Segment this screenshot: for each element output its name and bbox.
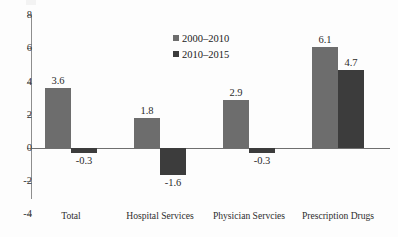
legend-label: 2000–2010 [182,33,229,44]
bar-value-label: 3.6 [38,75,78,86]
bar-value-label: 2.9 [216,87,256,98]
bar [338,70,364,148]
chart-legend: 2000–2010 2010–2015 [173,31,229,63]
bar-value-label: -0.3 [64,155,104,166]
legend-swatch-icon [173,35,179,41]
bar-chart: 86420-2-4 3.6-0.31.8-1.62.9-0.36.14.7 To… [0,0,398,237]
x-axis-category-label: Prescription Drugs [278,210,398,221]
bar [160,148,186,175]
bar [45,88,71,148]
bar-value-label: 1.8 [127,105,167,116]
bar-value-label: 4.7 [331,57,371,68]
bar [249,148,275,153]
legend-swatch-icon [173,51,179,57]
bar [71,148,97,153]
bar [134,118,160,148]
legend-label: 2010–2015 [182,49,229,60]
bar-value-label: -1.6 [153,177,193,188]
bar [223,100,249,148]
legend-item-2000-2010: 2000–2010 [173,31,229,45]
legend-item-2010-2015: 2010–2015 [173,47,229,61]
bar-value-label: -0.3 [242,155,282,166]
bar-value-label: 6.1 [305,34,345,45]
